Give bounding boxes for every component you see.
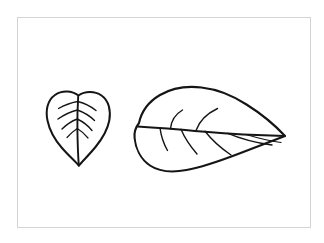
leaf-illustration-svg	[0, 0, 324, 243]
drawing-canvas	[0, 0, 324, 243]
card-frame	[18, 18, 311, 228]
